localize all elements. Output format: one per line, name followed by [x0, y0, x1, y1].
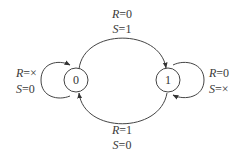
state-diagram: 0 1 R=0 S=1 R=1 S=0 R=× S=0 R=0 S=×: [0, 0, 239, 164]
state-1: 1: [156, 68, 180, 92]
svg-text:S=0: S=0: [16, 82, 35, 96]
self-loop-label-0: R=× S=0: [15, 66, 37, 96]
svg-text:R=1: R=1: [111, 123, 132, 137]
state-1-label: 1: [165, 73, 171, 87]
svg-text:R=0: R=0: [208, 66, 229, 80]
svg-text:R=0: R=0: [111, 7, 132, 21]
transition-0-to-1: [79, 38, 166, 69]
svg-text:S=0: S=0: [113, 138, 132, 152]
transition-label-1-to-0: R=1 S=0: [111, 123, 132, 152]
svg-text:S=1: S=1: [113, 22, 132, 36]
state-0-label: 0: [73, 73, 79, 87]
transition-label-0-to-1: R=0 S=1: [111, 7, 132, 36]
transition-1-to-0: [79, 93, 167, 124]
state-0: 0: [64, 68, 88, 92]
svg-text:R=×: R=×: [15, 66, 37, 80]
self-loop-label-1: R=0 S=×: [208, 66, 229, 96]
svg-text:S=×: S=×: [209, 82, 229, 96]
